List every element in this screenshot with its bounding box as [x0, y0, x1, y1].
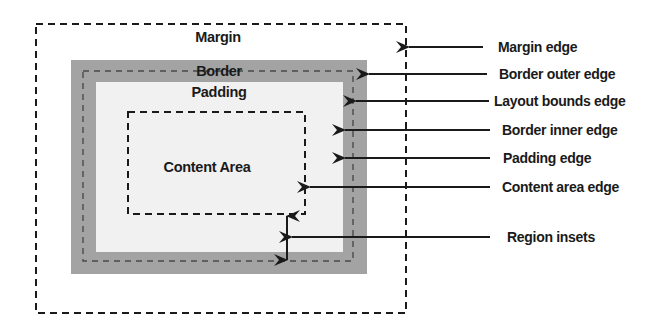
border-label: Border [196, 63, 242, 79]
callout-label: Padding edge [503, 150, 592, 166]
margin-label: Margin [195, 29, 241, 45]
callout-margin-edge: Margin edge [409, 39, 578, 55]
padding-label: Padding [191, 84, 246, 100]
callout-label: Border outer edge [499, 66, 616, 82]
box-model-diagram: Margin Border Padding Content Area Margi… [0, 0, 672, 329]
callout-label: Border inner edge [502, 122, 618, 138]
callout-label: Content area edge [502, 179, 620, 195]
callout-label: Region insets [507, 229, 595, 245]
callout-label: Margin edge [498, 39, 578, 55]
callout-label: Layout bounds edge [494, 93, 626, 109]
content-area-label: Content Area [164, 159, 252, 175]
